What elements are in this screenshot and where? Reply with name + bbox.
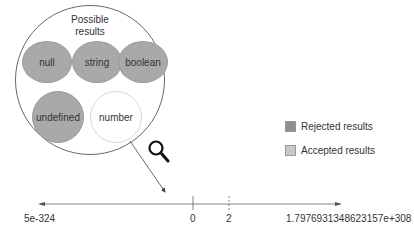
max-value-label: 1.7976931348623157e+308 <box>286 213 411 224</box>
legend-rejected-label: Rejected results <box>301 121 373 132</box>
two-label: 2 <box>226 213 232 224</box>
legend-accepted: Accepted results <box>285 145 375 156</box>
legend-rejected: Rejected results <box>285 121 373 132</box>
zoom-arrow <box>130 141 165 192</box>
number-line <box>38 196 342 212</box>
magnifier-icon <box>150 142 169 162</box>
accepted-swatch <box>285 145 296 156</box>
legend-accepted-label: Accepted results <box>301 145 375 156</box>
rejected-swatch <box>285 121 296 132</box>
min-value-label: 5e-324 <box>24 213 55 224</box>
zero-label: 0 <box>190 213 196 224</box>
